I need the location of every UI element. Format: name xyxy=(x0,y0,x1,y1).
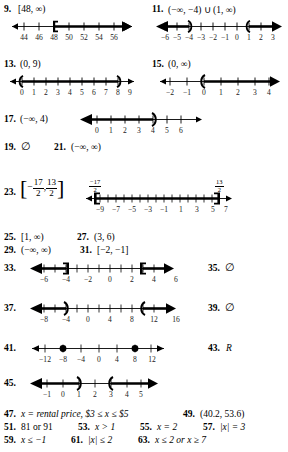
exercise-number-63: 63. xyxy=(138,435,150,445)
exercise-answer-31: [−2, −1] xyxy=(97,245,128,255)
exercise-answer-21: (−∞, ∞) xyxy=(71,142,101,152)
right-square-bracket: ] xyxy=(57,177,64,199)
exercise-answer-39: ∅ xyxy=(225,301,235,314)
number-line-15 xyxy=(156,74,282,89)
exercise-answer-59: x ≤ −1 xyxy=(21,435,46,445)
exercise-number-21: 21. xyxy=(54,142,66,152)
exercise-answer-53: x > 1 xyxy=(95,422,115,432)
number-line-33 xyxy=(28,261,176,276)
exercise-answer-27: (3, 6) xyxy=(94,232,115,242)
exercise-number-53: 53. xyxy=(78,422,90,432)
exercise-number-27: 27. xyxy=(77,232,89,242)
fraction-17-2: 172 xyxy=(33,178,44,198)
number-line-9 xyxy=(6,19,138,34)
exercise-number-55: 55. xyxy=(140,422,152,432)
exercise-answer-51: 81 or 91 xyxy=(21,422,53,432)
exercise-number-47: 47. xyxy=(4,409,16,419)
exercise-answer-15: (0, ∞) xyxy=(168,59,191,69)
number-line-45 xyxy=(28,376,160,391)
exercise-answer-11: (−∞, −4) ∪ (1, ∞) xyxy=(168,4,236,15)
exercise-answer-9: [48, ∞) xyxy=(18,4,45,14)
exercise-number-11: 11. xyxy=(152,4,163,14)
number-line-41 xyxy=(28,341,168,356)
exercise-number-9: 9. xyxy=(4,4,11,14)
exercise-answer-47: x = rental price, $3 ≤ x ≤ $5 xyxy=(21,409,129,419)
exercise-number-19: 19. xyxy=(4,142,16,152)
exercise-number-49: 49. xyxy=(183,409,195,419)
exercise-number-51: 51. xyxy=(4,422,16,432)
exercise-answer-25: [1, ∞) xyxy=(21,232,44,242)
exercise-number-25: 25. xyxy=(4,232,16,242)
exercise-number-29: 29. xyxy=(4,245,16,255)
exercise-answer-19: ∅ xyxy=(21,140,31,153)
exercise-number-13: 13. xyxy=(4,59,16,69)
exercise-number-43: 43. xyxy=(208,343,220,353)
exercise-answer-13: (0, 9) xyxy=(20,59,41,69)
exercise-answer-17: (−∞, 4) xyxy=(20,114,48,124)
exercise-answer-61: |x| ≤ 2 xyxy=(88,435,112,445)
exercise-answer-57: |x| = 3 xyxy=(220,422,245,432)
exercise-number-39: 39. xyxy=(208,303,220,313)
exercise-number-35: 35. xyxy=(208,263,220,273)
exercise-number-33: 33. xyxy=(4,263,16,273)
exercise-number-17: 17. xyxy=(4,114,16,124)
exercise-answer-63: x ≤ 2 or x ≥ 7 xyxy=(155,435,206,445)
exercise-answer-55: x = 2 xyxy=(157,422,177,432)
exercise-number-59: 59. xyxy=(4,435,16,445)
exercise-answer-49: (40.2, 53.6) xyxy=(200,409,244,419)
exercise-answer-29: (−∞, ∞) xyxy=(21,245,51,255)
exercise-number-15: 15. xyxy=(152,59,164,69)
exercise-answer-35: ∅ xyxy=(225,261,235,274)
exercise-number-37: 37. xyxy=(4,303,16,313)
exercise-number-57: 57. xyxy=(203,422,215,432)
number-line-23 xyxy=(84,191,234,206)
exercise-number-45: 45. xyxy=(4,378,16,388)
exercise-answer-23: [−172,132] xyxy=(20,177,64,199)
answer-key-page: 9. [48, ∞) 44 46 48 50 52 54 56 xyxy=(0,0,288,452)
number-line-37 xyxy=(28,301,178,316)
fraction-13-2: 132 xyxy=(46,178,57,198)
exercise-number-31: 31. xyxy=(80,245,92,255)
exercise-answer-43: R xyxy=(226,343,232,353)
exercise-number-23: 23. xyxy=(4,187,16,197)
exercise-number-41: 41. xyxy=(4,343,16,353)
exercise-number-61: 61. xyxy=(71,435,83,445)
number-line-11 xyxy=(152,19,286,34)
number-line-17 xyxy=(78,112,206,127)
number-line-13 xyxy=(6,74,138,89)
